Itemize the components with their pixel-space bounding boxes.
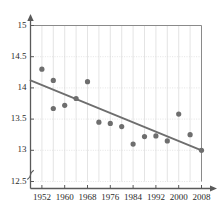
- y-tick-label: 13.5: [11, 114, 27, 123]
- tick-marks: [31, 26, 202, 189]
- y-tick-label: 14: [18, 83, 27, 92]
- plot-frame: [31, 26, 202, 182]
- trend-line: [31, 80, 202, 150]
- scatter-chart: 12.51313.51414.515 195219601968197619841…: [0, 0, 222, 219]
- y-tick-label: 15: [18, 21, 27, 30]
- gridlines: [31, 26, 202, 182]
- x-tick-label: 2008: [188, 193, 216, 202]
- y-tick-label: 14.5: [11, 52, 27, 61]
- y-tick-label: 12.5: [11, 177, 27, 186]
- axes: [27, 14, 217, 192]
- plot-area: [0, 0, 222, 219]
- y-tick-label: 13: [18, 145, 27, 154]
